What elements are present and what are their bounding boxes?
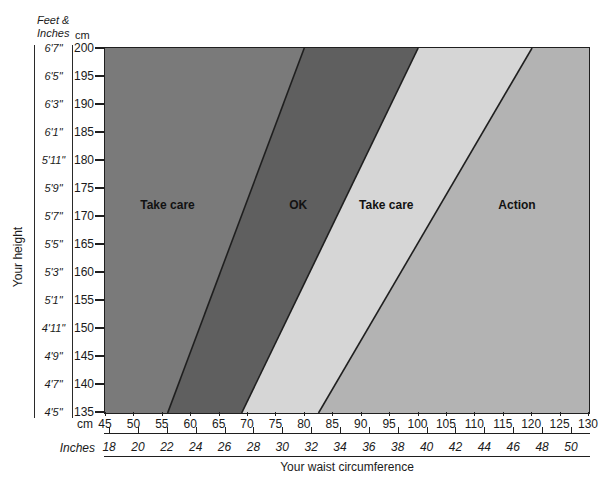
y-cm-label: 185: [57, 125, 94, 139]
feet-inches-header-line1: Feet &: [37, 14, 69, 27]
y-cm-label: 145: [57, 349, 94, 363]
x-axis-cm-tick: [361, 412, 362, 416]
zone-label-ok: OK: [289, 198, 307, 212]
x-axis-inch-tick: [513, 427, 514, 433]
x-axis-cm-tick: [531, 412, 532, 416]
plot-area: Take careOKTake careAction: [104, 47, 590, 414]
y-cm-label: 200: [57, 41, 94, 55]
x-axis-cm-tick: [219, 412, 220, 416]
y-cm-label: 190: [57, 97, 94, 111]
y-cm-label: 140: [57, 377, 94, 391]
y-cm-label: 175: [57, 181, 94, 195]
x-axis-cm-tick: [162, 412, 163, 416]
x-axis-inch-tick: [340, 427, 341, 433]
x-axis-inches-unit-label: Inches: [45, 442, 95, 455]
x-axis-cm-tick: [389, 412, 390, 416]
x-inch-label: 50: [554, 441, 588, 454]
x-axis-inch-tick: [282, 427, 283, 433]
x-axis-inch-tick: [427, 427, 428, 433]
x-axis-inch-tick: [138, 427, 139, 433]
y-cm-label: 170: [57, 209, 94, 223]
x-axis-cm-tick: [418, 412, 419, 416]
x-axis-inch-tick: [484, 427, 485, 433]
y-axis-title: Your height: [11, 227, 25, 287]
x-axis-inch-tick: [253, 427, 254, 433]
x-axis-cm-tick: [133, 412, 134, 416]
x-axis-title: Your waist circumference: [104, 460, 590, 474]
x-axis-cm-tick: [105, 412, 106, 416]
x-axis-cm-tick: [588, 412, 589, 416]
x-axis-cm-tick: [190, 412, 191, 416]
y-cm-label: 155: [57, 293, 94, 307]
x-axis-inch-tick: [398, 427, 399, 433]
x-axis-inch-tick: [571, 427, 572, 433]
x-axis-cm-tick: [474, 412, 475, 416]
feet-inches-header-line2: Inches: [37, 27, 69, 40]
y-cm-label: 165: [57, 237, 94, 251]
y-cm-label: 160: [57, 265, 94, 279]
x-axis-inch-tick: [225, 427, 226, 433]
y-cm-label: 150: [57, 321, 94, 335]
x-axis-inch-tick: [369, 427, 370, 433]
x-axis-inch-tick: [542, 427, 543, 433]
zone-label-take-care: Take care: [359, 198, 414, 212]
x-axis-cm-tick: [275, 412, 276, 416]
zone-label-take-care: Take care: [140, 198, 195, 212]
x-axis-cm-tick: [332, 412, 333, 416]
inches-scale-top-line: [104, 433, 590, 434]
x-axis-cm-unit-label: cm: [53, 418, 93, 431]
x-axis-inch-tick: [167, 427, 168, 433]
x-axis-cm-tick: [446, 412, 447, 416]
zones-svg: [105, 48, 589, 413]
y-cm-label: 180: [57, 153, 94, 167]
waist-height-chart-figure: Feet & Inches cm Your height 6'7"2006'5"…: [0, 0, 614, 487]
x-axis-cm-tick: [304, 412, 305, 416]
x-axis-inch-tick: [311, 427, 312, 433]
x-axis-inch-tick: [455, 427, 456, 433]
x-axis-inch-tick: [196, 427, 197, 433]
inches-scale-bottom-line: [104, 456, 590, 457]
zone-label-action: Action: [498, 198, 535, 212]
x-axis-cm-tick: [247, 412, 248, 416]
x-axis-inch-tick: [109, 427, 110, 433]
x-axis-cm-tick: [503, 412, 504, 416]
x-axis-cm-tick: [560, 412, 561, 416]
y-cm-label: 195: [57, 69, 94, 83]
x-cm-label: 130: [571, 418, 605, 431]
